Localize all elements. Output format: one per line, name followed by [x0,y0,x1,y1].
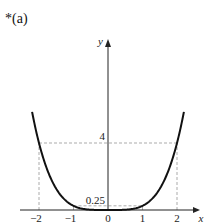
y-axis-arrow-icon [105,39,111,47]
quartic-plot: −2−101240.25xy [0,0,211,223]
x-tick-label: −2 [30,212,42,223]
x-tick-label: −1 [65,212,77,223]
x-tick-label: 1 [140,212,146,223]
y-axis-label: y [97,35,103,47]
x-axis-label: x [198,212,204,223]
y-tick-label: 0.25 [86,194,106,206]
x-tick-label: 2 [174,212,180,223]
x-tick-label: 0 [105,212,111,223]
y-tick-label: 4 [100,130,106,142]
